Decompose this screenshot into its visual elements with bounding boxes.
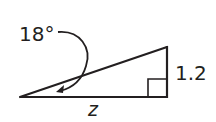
adjacent-side-label: z [87,98,99,120]
angle-label: 18° [19,22,54,46]
triangle [20,46,167,98]
right-angle-marker [148,79,167,97]
right-triangle-diagram: 18° 1.2 z [0,0,216,122]
opposite-side-label: 1.2 [175,61,207,85]
hypotenuse [20,47,167,97]
